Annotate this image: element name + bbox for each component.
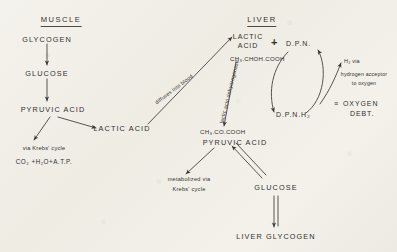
muscle-pyruvic-acid-node: PYRUVIC ACID (21, 106, 86, 114)
liver-lactic-acid-node-line2: ACID (238, 42, 258, 50)
oxygen-debt-line2: DEBT. (350, 110, 374, 118)
muscle-glycogen-node: GLYCOGEN (22, 36, 72, 44)
metabolized-krebs-line1: metabolized via (168, 176, 211, 182)
metabolized-krebs-line2: Krebs' cycle (173, 186, 206, 192)
arrow-glucose-to-pyruvic-liver-a (232, 146, 262, 178)
hydrogen-acceptor-label: hydrogen acceptor (341, 72, 387, 78)
plus-sign-label: + (271, 36, 278, 49)
arrow-pyruvic-to-krebs (34, 117, 50, 140)
muscle-glucose-node: GLUCOSE (25, 70, 68, 78)
muscle-lactic-acid-node: LACTIC ACID (93, 125, 150, 133)
oxygen-debt-line1: OXYGEN (343, 100, 378, 108)
dpnh2-node: D.P.N.H₂ (276, 111, 311, 119)
oxygen-debt-symbol: ≡ (334, 100, 339, 108)
liver-glucose-node: GLUCOSE (254, 184, 297, 192)
arrow-glucose-to-pyruvic-liver-b (236, 143, 266, 175)
muscle-krebs-note: via Krebs' cycle (23, 145, 66, 151)
muscle-krebs-products: CO₂ +H₂O+A.T.P. (16, 158, 72, 165)
liver-heading: LIVER (247, 16, 276, 27)
muscle-heading: MUSCLE (41, 16, 82, 27)
arrow-pyruvic-to-lactic (58, 117, 96, 128)
arrow-pyruvic-to-metabolized (186, 148, 214, 174)
hydrogen-via-label: H₂ via (344, 58, 360, 64)
liver-glycogen-node: LIVER GLYCOGEN (236, 233, 315, 241)
liver-lactic-acid-node-line1: LACTIC (233, 33, 263, 41)
liver-pyruvic-acid-formula: CH₃.CO.COOH (200, 128, 245, 135)
to-oxygen-label: to oxygen (352, 81, 376, 87)
biochemistry-diagram: MUSCLE GLYCOGEN GLUCOSE PYRUVIC ACID LAC… (0, 0, 397, 252)
dpn-node: D.P.N. (286, 40, 311, 48)
liver-pyruvic-acid-node: PYRUVIC ACID (203, 139, 268, 147)
